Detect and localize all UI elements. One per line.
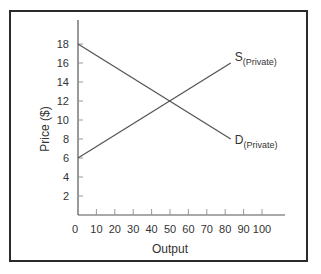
x-axis-title: Output [152,242,189,256]
axes [78,20,285,215]
supply-demand-chart: 246810121416180102030405060708090100 S(P… [0,0,321,274]
y-tick-label: 4 [63,171,69,183]
y-tick-label: 10 [57,114,69,126]
x-tick-label: 30 [127,223,139,235]
labels: S(Private)D(Private) [235,50,278,150]
y-axis-title: Price ($) [38,106,52,151]
y-tick-label: 16 [57,57,69,69]
y-tick-label: 8 [63,133,69,145]
y-tick-label: 18 [57,38,69,50]
x-tick-label: 60 [182,223,194,235]
series [78,44,231,158]
x-tick-label: 90 [237,223,249,235]
x-tick-label: 80 [219,223,231,235]
y-tick-label: 6 [63,152,69,164]
y-tick-label: 14 [57,76,69,88]
supply-label: S(Private) [235,50,277,67]
demand-curve [78,44,231,139]
x-tick-label: 0 [72,223,78,235]
y-tick-label: 2 [63,190,69,202]
x-tick-label: 70 [201,223,213,235]
y-tick-label: 12 [57,95,69,107]
x-tick-label: 50 [164,223,176,235]
supply-curve [78,63,231,158]
x-tick-label: 40 [145,223,157,235]
x-tick-label: 100 [253,223,271,235]
x-tick-label: 10 [90,223,102,235]
x-tick-label: 20 [109,223,121,235]
demand-label: D(Private) [235,133,278,150]
